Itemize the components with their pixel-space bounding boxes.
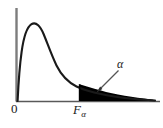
density-curve — [18, 23, 155, 101]
critical-value-subscript: α — [81, 109, 86, 119]
x-axis-critical-value-label: Fα — [73, 103, 86, 119]
alpha-leader-line — [100, 71, 119, 90]
critical-value-letter: F — [73, 102, 81, 117]
f-distribution-figure: 0 Fα α — [0, 0, 163, 128]
tail-area-alpha-label: α — [117, 58, 123, 70]
x-axis-origin-label: 0 — [11, 102, 18, 115]
